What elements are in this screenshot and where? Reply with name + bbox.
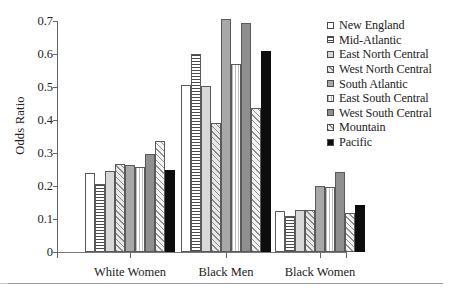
bar (345, 213, 355, 252)
bar-group (181, 21, 271, 252)
legend-swatch-icon (327, 36, 334, 43)
legend-item: Pacific (327, 135, 451, 150)
bar (145, 154, 155, 252)
legend-item: Mid-Atlantic (327, 33, 451, 48)
x-tick-mark (320, 253, 321, 258)
x-axis-line (57, 252, 347, 253)
legend-item: East North Central (327, 47, 451, 62)
bar (285, 216, 295, 252)
legend-swatch-icon (327, 22, 334, 29)
bar (261, 51, 271, 252)
bar (275, 211, 285, 252)
y-tick-label: 0.1 (19, 213, 53, 226)
bar (201, 86, 211, 252)
bar (241, 23, 251, 252)
bar (115, 164, 125, 252)
bar (165, 170, 175, 252)
y-tick-mark (53, 219, 58, 220)
bar (191, 54, 201, 252)
x-category-label: Black Women (285, 265, 356, 280)
y-tick-label: 0.3 (19, 147, 53, 160)
y-tick-label: 0.4 (19, 114, 53, 127)
y-tick-mark (53, 120, 58, 121)
bar (105, 171, 115, 252)
legend-label: Pacific (339, 136, 372, 148)
y-tick-label: 0.6 (19, 48, 53, 61)
bar (135, 167, 145, 252)
plot-area: 00.10.20.30.40.50.60.7 White WomenBlack … (57, 21, 347, 253)
legend-label: East South Central (339, 92, 429, 104)
x-axis-end-tick (346, 253, 347, 258)
y-tick-label: 0 (19, 246, 53, 259)
bar (335, 172, 345, 252)
y-tick-mark (53, 21, 58, 22)
bar (181, 85, 191, 252)
bar (231, 64, 241, 252)
legend-swatch-icon (327, 66, 334, 73)
y-tick-label: 0.7 (19, 15, 53, 28)
legend-label: West South Central (339, 107, 432, 119)
legend-label: East North Central (339, 48, 429, 60)
legend-swatch-icon (327, 139, 334, 146)
footer-rule (8, 283, 443, 284)
legend-swatch-icon (327, 51, 334, 58)
bar (355, 205, 365, 252)
bar (95, 184, 105, 252)
bar (85, 173, 95, 252)
legend-item: New England (327, 18, 451, 33)
legend-label: Mountain (339, 121, 386, 133)
bar-group (85, 21, 175, 252)
bar (251, 108, 261, 252)
bar (211, 123, 221, 252)
bar (295, 210, 305, 252)
legend-item: West South Central (327, 106, 451, 121)
legend-item: West North Central (327, 62, 451, 77)
x-category-label: White Women (94, 265, 166, 280)
legend-swatch-icon (327, 109, 334, 116)
legend-swatch-icon (327, 95, 334, 102)
bar (315, 186, 325, 252)
x-axis-end-tick (57, 253, 58, 258)
bar (325, 187, 335, 252)
chart-figure: Odds Ratio 00.10.20.30.40.50.60.7 White … (0, 0, 451, 294)
bar (305, 210, 315, 252)
legend-label: West North Central (339, 63, 432, 75)
y-tick-mark (53, 54, 58, 55)
y-tick-mark (53, 153, 58, 154)
legend-label: Mid-Atlantic (339, 34, 401, 46)
bar (155, 141, 165, 252)
legend-label: New England (339, 19, 405, 31)
legend-swatch-icon (327, 124, 334, 131)
legend-label: South Atlantic (339, 78, 408, 90)
x-tick-mark (226, 253, 227, 258)
x-tick-mark (130, 253, 131, 258)
legend-item: East South Central (327, 91, 451, 106)
bar (221, 19, 231, 252)
x-category-label: Black Men (198, 265, 253, 280)
legend-item: Mountain (327, 120, 451, 135)
y-tick-label: 0.5 (19, 81, 53, 94)
chart-legend: New EnglandMid-AtlanticEast North Centra… (327, 18, 451, 149)
y-tick-mark (53, 186, 58, 187)
bar (125, 165, 135, 252)
legend-swatch-icon (327, 80, 334, 87)
legend-item: South Atlantic (327, 76, 451, 91)
y-tick-mark (53, 87, 58, 88)
y-tick-label: 0.2 (19, 180, 53, 193)
